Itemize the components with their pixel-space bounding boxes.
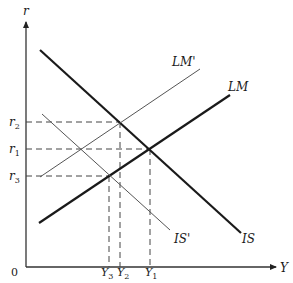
x-axis-label: Y (280, 261, 289, 275)
tick-r3: r3 (9, 169, 20, 185)
tick-y3: Y3 (101, 266, 113, 281)
tick-y1: Y1 (145, 266, 157, 281)
origin-label: 0 (11, 266, 18, 279)
is-label: IS (241, 232, 255, 246)
is-prime-label: IS' (173, 232, 190, 246)
lm-curve (39, 95, 230, 223)
tick-r2: r2 (9, 115, 20, 131)
is-curve (40, 50, 241, 233)
is-lm-diagram: LM' LM IS' IS r Y 0 r2 r1 r3 Y3 Y2 Y1 (0, 0, 293, 283)
is-prime-curve (42, 114, 170, 230)
y-axis-label: r (23, 4, 30, 18)
diagram-canvas: LM' LM IS' IS r Y 0 r2 r1 r3 Y3 Y2 Y1 (0, 0, 293, 283)
tick-y2: Y2 (117, 266, 129, 281)
lm-prime-curve (40, 69, 200, 177)
lm-label: LM (227, 80, 249, 94)
lm-prime-label: LM' (171, 55, 196, 69)
tick-r1: r1 (9, 142, 20, 158)
